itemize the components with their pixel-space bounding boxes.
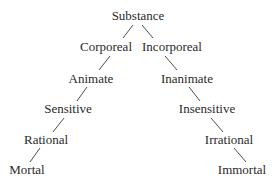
edge-irrational-immortal [234,148,246,162]
node-corporeal: Corporeal [80,40,132,54]
edge-inanimate-insensitive [189,87,200,101]
edge-insensitive-irrational [211,118,223,132]
node-immortal: Immortal [218,163,266,177]
tree-diagram: Substance Corporeal Incorporeal Animate … [0,0,278,187]
node-insensitive: Insensitive [179,102,235,116]
node-animate: Animate [69,72,114,86]
edge-incorporeal-inanimate [165,56,177,70]
node-mortal: Mortal [9,163,44,177]
edge-sensitive-rational [53,118,64,132]
edge-corporeal-animate [99,56,110,70]
edge-substance-corporeal [123,25,133,38]
edge-animate-sensitive [77,87,87,101]
node-sensitive: Sensitive [44,102,92,116]
node-substance: Substance [112,9,165,23]
node-incorporeal: Incorporeal [142,40,202,54]
edge-substance-incorporeal [142,25,153,38]
node-rational: Rational [24,133,68,147]
edge-rational-mortal [30,148,40,162]
node-irrational: Irrational [205,133,253,147]
edges-layer [0,0,278,187]
node-inanimate: Inanimate [161,72,213,86]
